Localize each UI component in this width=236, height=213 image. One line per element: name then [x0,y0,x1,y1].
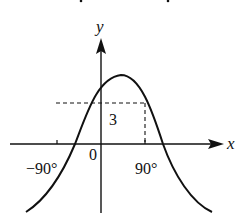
origin-label: 0 [89,146,97,163]
cropped-mark-right [167,0,170,2]
cropped-mark-left [80,0,83,2]
tick-label-pos-90: 90° [135,160,157,177]
y-axis-label: y [94,17,104,36]
tick-label-neg-90: −90° [26,160,57,177]
graph-canvas: y x 0 −90° 90° 3 [0,0,236,213]
value-label-3: 3 [109,111,117,128]
x-axis-label: x [226,134,235,153]
